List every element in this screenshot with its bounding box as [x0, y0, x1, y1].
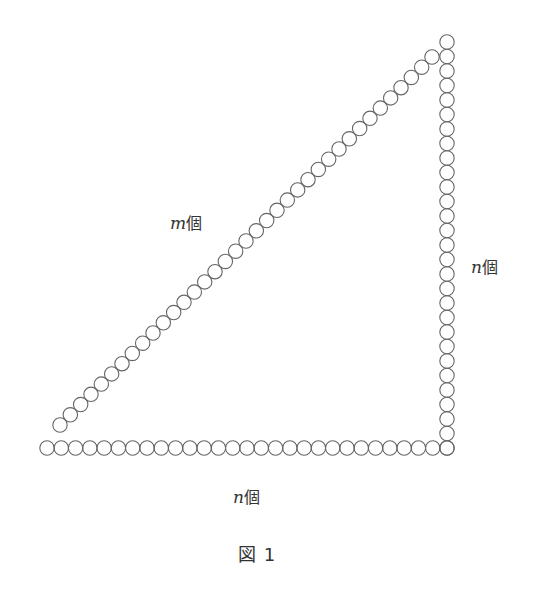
- circle: [226, 441, 240, 455]
- circle: [440, 354, 454, 368]
- circle: [440, 426, 454, 440]
- bottom-count-unit: 個: [244, 488, 260, 507]
- vertical-count-unit: 個: [482, 258, 498, 277]
- circle: [440, 122, 454, 136]
- bottom-count-label: n個: [233, 484, 260, 508]
- circle: [425, 50, 439, 64]
- circle: [440, 180, 454, 194]
- circle: [183, 441, 197, 455]
- vertical-column-circles: [440, 35, 454, 455]
- circle: [440, 136, 454, 150]
- circle: [440, 93, 454, 107]
- circle: [383, 441, 397, 455]
- circle: [97, 441, 111, 455]
- circle: [440, 281, 454, 295]
- circle: [440, 151, 454, 165]
- circle: [83, 441, 97, 455]
- circle: [440, 412, 454, 426]
- circle: [440, 296, 454, 310]
- circle: [440, 252, 454, 266]
- figure-caption: 図 1: [238, 540, 276, 566]
- circle: [440, 267, 454, 281]
- circle: [440, 397, 454, 411]
- circle: [440, 78, 454, 92]
- circle: [440, 194, 454, 208]
- triangle-of-circles-diagram: [0, 0, 541, 589]
- circle: [397, 441, 411, 455]
- circle: [197, 441, 211, 455]
- circle: [440, 368, 454, 382]
- circle: [297, 441, 311, 455]
- vertical-count-label: n個: [471, 254, 498, 278]
- circle: [40, 441, 54, 455]
- circle: [311, 441, 325, 455]
- circle: [440, 383, 454, 397]
- diagonal-count-variable: m: [170, 213, 186, 233]
- circle: [426, 441, 440, 455]
- circle: [440, 165, 454, 179]
- circle: [154, 441, 168, 455]
- diagonal-count-label: m個: [170, 210, 202, 234]
- circle: [54, 441, 68, 455]
- circle: [326, 441, 340, 455]
- diagonal-row-circles: [53, 50, 439, 432]
- circle: [440, 339, 454, 353]
- circle: [368, 441, 382, 455]
- circle: [240, 441, 254, 455]
- circle: [254, 441, 268, 455]
- bottom-count-variable: n: [233, 487, 244, 507]
- bottom-row-circles: [40, 441, 454, 455]
- diagonal-count-unit: 個: [186, 214, 202, 233]
- circle: [440, 49, 454, 63]
- circle: [140, 441, 154, 455]
- circle: [268, 441, 282, 455]
- circle: [168, 441, 182, 455]
- circle: [440, 107, 454, 121]
- circle: [68, 441, 82, 455]
- circle: [126, 441, 140, 455]
- circle: [440, 441, 454, 455]
- circle: [440, 310, 454, 324]
- circle: [440, 209, 454, 223]
- circle: [111, 441, 125, 455]
- circle: [440, 325, 454, 339]
- circle: [411, 441, 425, 455]
- circle: [440, 223, 454, 237]
- vertical-count-variable: n: [471, 257, 482, 277]
- circle: [340, 441, 354, 455]
- circle: [354, 441, 368, 455]
- circle: [440, 35, 454, 49]
- circle: [440, 238, 454, 252]
- circle: [211, 441, 225, 455]
- circle: [283, 441, 297, 455]
- circle: [440, 64, 454, 78]
